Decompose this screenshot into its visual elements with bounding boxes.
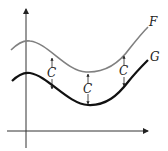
offset-label-c: C bbox=[47, 66, 56, 80]
offset-arrow-3: C bbox=[119, 56, 128, 86]
offset-arrow-2: C bbox=[83, 74, 92, 104]
diagram-canvas: C C C F G bbox=[0, 0, 168, 151]
offset-label-c: C bbox=[119, 64, 128, 78]
curve-g-label: G bbox=[150, 50, 160, 64]
curve-f-label: F bbox=[148, 15, 158, 29]
offset-label-c: C bbox=[83, 82, 92, 96]
